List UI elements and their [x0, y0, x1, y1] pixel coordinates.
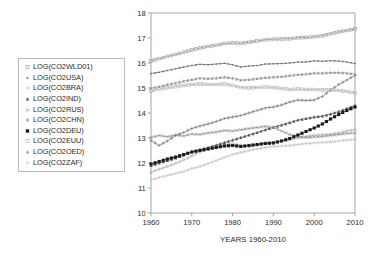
y-tick-label: 11	[138, 184, 146, 193]
y-tick-label: 15	[137, 84, 145, 93]
x-tick-label: 1960	[143, 218, 160, 227]
chart-screenshot: LOG(CO2WLD01)LOG(CO2USA)LOG(CO2BRA)LOG(C…	[0, 0, 368, 260]
y-tick-label: 13	[137, 134, 145, 143]
y-tick-label: 16	[137, 59, 145, 68]
x-tick-label: 1980	[224, 218, 241, 227]
y-tick-label: 12	[137, 159, 145, 168]
y-tick-label: 17	[137, 34, 145, 43]
x-tick-label: 1970	[183, 218, 200, 227]
chart-plot-area: 1011121314151617181960197019801990200020…	[0, 0, 368, 260]
x-axis-ticks: 196019701980199020002010	[143, 213, 364, 227]
y-tick-label: 18	[137, 9, 145, 18]
y-tick-label: 14	[137, 109, 145, 118]
x-tick-label: 2000	[306, 218, 323, 227]
series-logco2wld01	[150, 28, 357, 63]
y-tick-label: 10	[137, 209, 145, 218]
series-logco2usa	[150, 60, 356, 74]
x-tick-label: 1990	[265, 218, 282, 227]
y-axis-ticks: 101112131415161718	[137, 9, 151, 218]
x-axis-label: YEARS 1960-2010	[220, 235, 287, 244]
series-logco2rus	[149, 125, 356, 139]
series-logco2euu	[150, 83, 357, 95]
x-tick-label: 2010	[347, 218, 364, 227]
